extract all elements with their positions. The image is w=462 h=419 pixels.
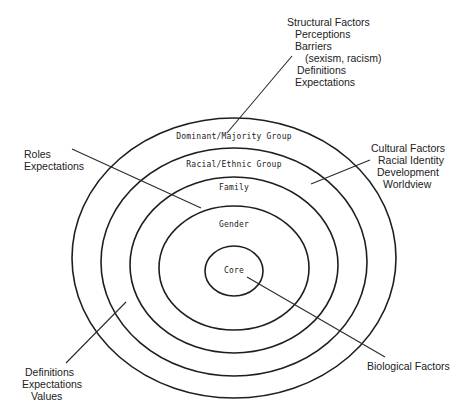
roles-line-1: Roles (24, 148, 51, 160)
definitions-line-3: Values (31, 390, 62, 402)
cultural-line-2: Development (377, 166, 439, 178)
leader-structural (227, 56, 292, 133)
ring-label-gender: Gender (219, 220, 249, 229)
structural-line-3: (sexism, racism) (305, 52, 381, 64)
definitions-line-1: Definitions (25, 366, 74, 378)
cultural-title: Cultural Factors (371, 142, 445, 154)
ring-label-dominant: Dominant/Majority Group (176, 132, 291, 141)
annotation-structural-factors: Structural Factors Perceptions Barriers … (287, 16, 381, 88)
annotation-roles: Roles Expectations (24, 148, 84, 172)
structural-line-5: Expectations (295, 76, 355, 88)
structural-title: Structural Factors (287, 16, 370, 28)
ring-family (130, 177, 338, 353)
cultural-line-1: Racial Identity (378, 154, 445, 166)
definitions-line-2: Expectations (22, 378, 82, 390)
annotation-biological-factors: Biological Factors (367, 360, 450, 372)
annotation-cultural-factors: Cultural Factors Racial Identity Develop… (371, 142, 445, 190)
structural-line-4: Definitions (297, 64, 346, 76)
leader-biological (247, 277, 385, 357)
ring-label-racial: Racial/Ethnic Group (186, 160, 281, 169)
biological-line-1: Biological Factors (367, 360, 450, 372)
ring-label-family: Family (219, 183, 249, 192)
roles-line-2: Expectations (24, 160, 84, 172)
cultural-line-3: Worldview (383, 178, 432, 190)
structural-line-1: Perceptions (295, 28, 350, 40)
concentric-identity-diagram: Dominant/Majority Group Racial/Ethnic Gr… (0, 0, 462, 419)
structural-line-2: Barriers (295, 40, 332, 52)
ring-label-core: Core (224, 266, 244, 275)
annotation-definitions: Definitions Expectations Values (22, 366, 82, 402)
